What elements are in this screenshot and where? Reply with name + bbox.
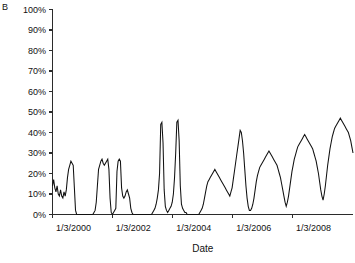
x-tick-label: 1/3/2002: [116, 223, 151, 233]
y-tick-label: 70%: [28, 66, 46, 76]
y-tick-label: 100%: [23, 5, 46, 15]
y-tick-label: 0%: [33, 210, 46, 220]
x-tick-label: 1/3/2004: [176, 223, 211, 233]
y-axis-ticks: 100%90%80%70%60%50%40%30%20%10%0%: [23, 5, 53, 220]
y-tick-label: 20%: [28, 169, 46, 179]
x-axis-ticks: 1/3/20001/3/20021/3/20041/3/20061/3/2008: [53, 215, 332, 233]
x-axis-title: Date: [192, 243, 214, 254]
y-tick-label: 50%: [28, 107, 46, 117]
x-tick-label: 1/3/2006: [236, 223, 271, 233]
line-chart: 100%90%80%70%60%50%40%30%20%10%0% 1/3/20…: [0, 0, 355, 263]
y-tick-label: 90%: [28, 25, 46, 35]
y-tick-label: 80%: [28, 46, 46, 56]
x-tick-label: 1/3/2000: [56, 223, 91, 233]
y-tick-label: 60%: [28, 87, 46, 97]
y-tick-label: 40%: [28, 128, 46, 138]
data-series-line: [53, 118, 354, 214]
chart-figure: B 100%90%80%70%60%50%40%30%20%10%0% 1/3/…: [0, 0, 355, 263]
x-tick-label: 1/3/2008: [296, 223, 331, 233]
y-tick-label: 30%: [28, 148, 46, 158]
y-tick-label: 10%: [28, 189, 46, 199]
